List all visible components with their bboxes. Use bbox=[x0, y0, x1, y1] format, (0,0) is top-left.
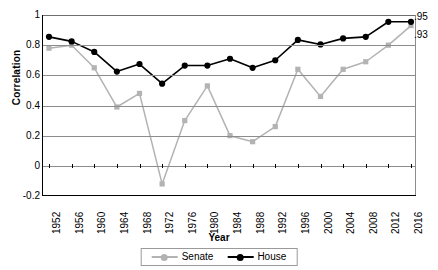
legend-label-senate: Senate bbox=[182, 251, 214, 262]
y-axis-tick-labels: 10.80.60.40.20-0.2 bbox=[0, 0, 40, 270]
x-axis-tick bbox=[253, 164, 254, 168]
x-axis-tick bbox=[298, 164, 299, 168]
legend-swatch-senate bbox=[152, 252, 178, 262]
gridline bbox=[43, 136, 416, 137]
x-axis-tick bbox=[230, 164, 231, 168]
gridline bbox=[43, 106, 416, 107]
data-point-senate-1980 bbox=[205, 83, 210, 88]
data-point-house-2012 bbox=[385, 19, 391, 25]
data-point-house-1972 bbox=[159, 81, 165, 87]
annotation-senate: .93 bbox=[414, 30, 428, 40]
chart-legend: Senate House bbox=[141, 248, 298, 266]
data-point-senate-1952 bbox=[46, 46, 51, 51]
data-point-house-1952 bbox=[46, 34, 52, 40]
data-point-house-1968 bbox=[136, 61, 142, 67]
gridline bbox=[43, 45, 416, 46]
x-tick-label: 1980 bbox=[210, 212, 220, 234]
x-axis-tick bbox=[275, 164, 276, 168]
x-tick-label: 1976 bbox=[188, 212, 198, 234]
data-point-senate-1992 bbox=[273, 124, 278, 129]
data-point-senate-1988 bbox=[250, 139, 255, 144]
x-tick-label: 1956 bbox=[75, 212, 85, 234]
plot-right-border bbox=[415, 15, 416, 195]
x-axis-tick bbox=[343, 164, 344, 168]
y-tick-label: 1 bbox=[6, 10, 40, 20]
x-axis-tick bbox=[49, 164, 50, 168]
x-axis-title: Year bbox=[0, 232, 438, 243]
data-point-house-1964 bbox=[114, 68, 120, 74]
data-point-house-1976 bbox=[182, 62, 188, 68]
x-tick-label: 1972 bbox=[165, 212, 175, 234]
x-tick-label: 1984 bbox=[233, 212, 243, 234]
x-axis-tick bbox=[366, 164, 367, 168]
legend-item-senate[interactable]: Senate bbox=[152, 251, 214, 262]
x-axis-tick bbox=[388, 164, 389, 168]
x-axis-tick bbox=[411, 164, 412, 168]
x-tick-label: 1992 bbox=[278, 212, 288, 234]
gridline bbox=[43, 15, 416, 16]
data-point-house-2004 bbox=[340, 35, 346, 41]
x-tick-label: 1964 bbox=[120, 212, 130, 234]
x-tick-label: 2012 bbox=[391, 212, 401, 234]
x-axis-tick bbox=[72, 164, 73, 168]
data-point-house-1980 bbox=[204, 62, 210, 68]
data-point-house-2008 bbox=[363, 34, 369, 40]
data-point-senate-1960 bbox=[92, 65, 97, 70]
y-tick-label: 0 bbox=[6, 161, 40, 171]
x-tick-label: 2004 bbox=[346, 212, 356, 234]
x-tick-label: 2008 bbox=[369, 212, 379, 234]
data-point-house-1956 bbox=[69, 38, 75, 44]
gridline bbox=[43, 75, 416, 76]
x-axis-tick bbox=[207, 164, 208, 168]
x-tick-label: 1996 bbox=[301, 212, 311, 234]
y-tick-label: -0.2 bbox=[6, 191, 40, 201]
data-point-house-1996 bbox=[295, 37, 301, 43]
data-point-house-1992 bbox=[272, 57, 278, 63]
legend-label-house: House bbox=[257, 251, 286, 262]
y-tick-label: 0.8 bbox=[6, 40, 40, 50]
data-point-senate-1968 bbox=[137, 91, 142, 96]
x-tick-label: 1960 bbox=[97, 212, 107, 234]
y-tick-label: 0.2 bbox=[6, 131, 40, 141]
data-point-senate-1976 bbox=[182, 118, 187, 123]
data-point-senate-1996 bbox=[295, 67, 300, 72]
legend-item-house[interactable]: House bbox=[227, 251, 286, 262]
data-point-senate-1972 bbox=[160, 181, 165, 186]
data-point-senate-2004 bbox=[341, 67, 346, 72]
x-tick-label: 2000 bbox=[324, 212, 334, 234]
annotation-house: .95 bbox=[414, 12, 428, 22]
x-axis-tick bbox=[117, 164, 118, 168]
x-tick-label: 1968 bbox=[143, 212, 153, 234]
x-axis-tick bbox=[321, 164, 322, 168]
x-axis-tick bbox=[162, 164, 163, 168]
y-tick-label: 0.4 bbox=[6, 101, 40, 111]
x-tick-label: 2016 bbox=[414, 212, 424, 234]
plot-area bbox=[42, 15, 416, 196]
y-tick-label: 0.6 bbox=[6, 70, 40, 80]
data-point-house-1984 bbox=[227, 56, 233, 62]
legend-swatch-house bbox=[227, 252, 253, 262]
x-axis-tick bbox=[140, 164, 141, 168]
data-point-senate-2008 bbox=[363, 59, 368, 64]
x-axis-tick bbox=[185, 164, 186, 168]
x-tick-label: 1952 bbox=[52, 212, 62, 234]
data-point-house-1988 bbox=[250, 65, 256, 71]
x-tick-label: 1988 bbox=[256, 212, 266, 234]
correlation-line-chart: Correlation 10.80.60.40.20-0.2 195219561… bbox=[0, 0, 438, 270]
data-point-house-1960 bbox=[91, 49, 97, 55]
x-axis-tick bbox=[94, 164, 95, 168]
data-point-senate-2000 bbox=[318, 94, 323, 99]
